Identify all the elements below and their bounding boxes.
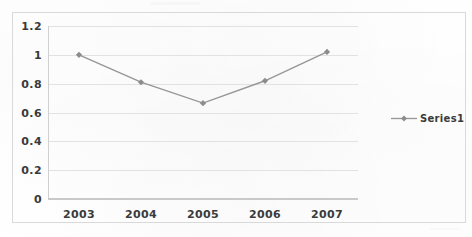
data-point-marker bbox=[324, 49, 330, 55]
plot-area: 00.20.40.60.811.2 20032004200520062007 bbox=[48, 26, 358, 199]
data-point-marker bbox=[76, 52, 82, 58]
x-axis-tick-label: 2004 bbox=[125, 208, 157, 221]
legend-label-series1: Series1 bbox=[420, 113, 464, 124]
x-axis-tick-label: 2003 bbox=[63, 208, 95, 221]
chart-legend: Series1 bbox=[391, 113, 464, 124]
legend-marker-icon bbox=[391, 114, 417, 123]
scan-artifact bbox=[150, 2, 200, 5]
y-axis-tick-label: 0.2 bbox=[21, 164, 42, 177]
y-axis-tick-label: 0.6 bbox=[21, 106, 42, 119]
y-axis-tick-label: 0.4 bbox=[21, 135, 42, 148]
x-axis-tick-label: 2007 bbox=[311, 208, 343, 221]
gridline bbox=[48, 199, 358, 200]
y-axis-tick-label: 1 bbox=[34, 48, 42, 61]
x-axis-tick-label: 2006 bbox=[249, 208, 281, 221]
x-axis-tick-label: 2005 bbox=[187, 208, 219, 221]
scan-artifact bbox=[430, 228, 460, 230]
data-point-marker bbox=[138, 79, 144, 85]
y-axis-tick-label: 0.8 bbox=[21, 77, 42, 90]
y-axis-tick-label: 1.2 bbox=[21, 20, 42, 33]
chart-screenshot: 00.20.40.60.811.2 20032004200520062007 S… bbox=[0, 0, 472, 237]
series-line-series1 bbox=[48, 26, 358, 199]
data-point-marker bbox=[262, 78, 268, 84]
y-axis-tick-label: 0 bbox=[34, 193, 42, 206]
series-line bbox=[79, 52, 327, 103]
data-point-marker bbox=[200, 100, 206, 106]
